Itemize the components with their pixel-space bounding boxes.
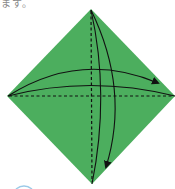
next-step-arc-icon	[16, 186, 32, 189]
origami-diagram	[0, 0, 175, 189]
